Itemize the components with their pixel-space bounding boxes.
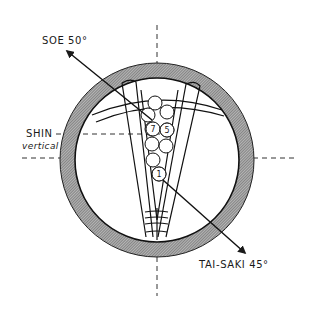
shin-sublabel: vertical: [22, 141, 59, 151]
flower-number-5: 5: [164, 126, 169, 135]
soe-label: SOE 50°: [42, 35, 88, 46]
tai-saki-label: TAI-SAKI 45°: [198, 259, 269, 270]
shin-label: SHIN: [26, 128, 53, 139]
ikebana-diagram: 7 5 1 SOE 50° SHIN vertical TAI-SAKI 45°: [0, 0, 317, 315]
flower-number-7: 7: [150, 125, 155, 134]
flower-number-1: 1: [156, 170, 161, 179]
